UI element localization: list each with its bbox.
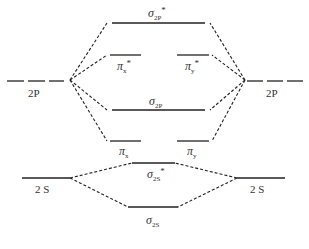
sigma-2p-star-label: σ2P*	[148, 6, 166, 22]
sigma-2s-label: σ2S	[146, 214, 159, 229]
pi-y-label: πy	[187, 145, 197, 160]
left-2p-label: 2P	[28, 88, 40, 99]
right-2s-label: 2 S	[250, 184, 264, 195]
left-2s-label: 2 S	[35, 184, 49, 195]
sigma-2p-label: σ2P	[149, 95, 162, 110]
pi-x-label: πx	[119, 145, 129, 160]
pi-y-star-label: πy*	[185, 59, 199, 75]
sigma-2s-star-label: σ2S*	[147, 167, 165, 183]
diagram-lines	[0, 0, 309, 249]
mo-diagram: 2P 2P 2 S 2 S σ2P* πx* πy* σ2P πx πy σ2S…	[0, 0, 309, 249]
right-2p-label: 2P	[266, 88, 278, 99]
pi-x-star-label: πx*	[117, 59, 131, 75]
